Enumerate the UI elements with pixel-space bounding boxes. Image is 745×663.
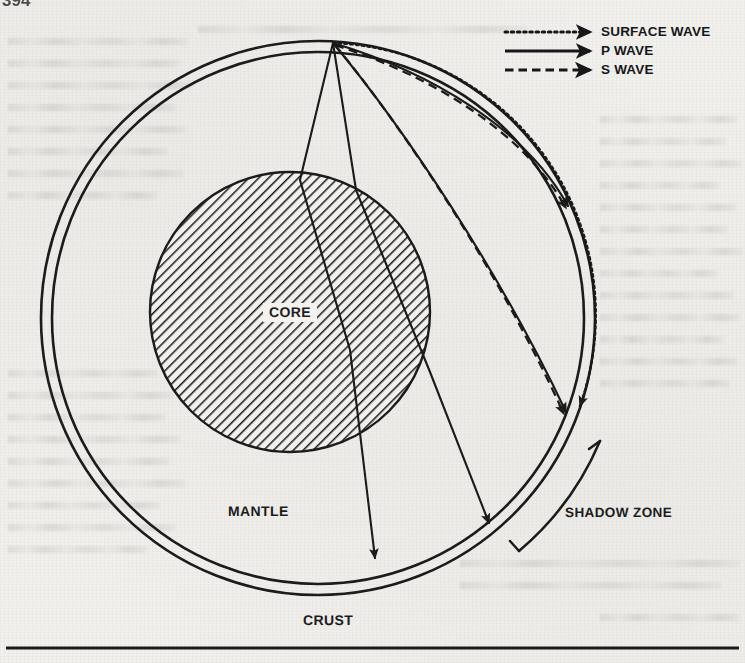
page-number: 394	[2, 0, 30, 11]
legend-label-surface-wave: SURFACE WAVE	[601, 24, 710, 39]
crust-label: CRUST	[303, 612, 353, 628]
seismic-wave-diagram	[0, 0, 745, 663]
scanned-page: 394 SURFACE WAVE P WAVE S WAVE CORE MANT…	[0, 0, 745, 663]
mantle-label: MANTLE	[228, 503, 289, 519]
legend-label-p-wave: P WAVE	[601, 43, 653, 58]
s-wave-ray-1	[335, 45, 566, 208]
shadow-zone-label: SHADOW ZONE	[565, 505, 672, 520]
core-label: CORE	[263, 303, 317, 322]
legend-samples	[505, 32, 590, 70]
legend-label-s-wave: S WAVE	[601, 62, 654, 77]
p-wave-mantle-ray-1	[333, 43, 568, 206]
shadow-zone-arc	[510, 441, 600, 551]
